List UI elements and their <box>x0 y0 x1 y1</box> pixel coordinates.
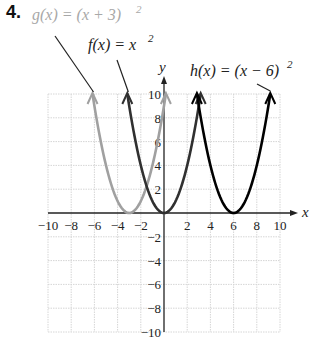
label-h-exponent: 2 <box>287 58 293 70</box>
parabola-chart: xy−10−8−6−4−2246810108642−2−4−6−8−10g(x)… <box>0 0 316 359</box>
x-tick-label: −8 <box>64 218 78 233</box>
y-tick-label: −4 <box>147 254 161 269</box>
x-axis-arrow-icon <box>290 210 298 216</box>
x-tick-label: −2 <box>134 218 148 233</box>
y-tick-label: −10 <box>141 325 161 340</box>
label-h: h(x) = (x − 6) <box>190 62 279 80</box>
x-tick-label: 10 <box>274 218 287 233</box>
x-tick-label: 6 <box>230 218 237 233</box>
y-tick-label: −2 <box>147 230 161 245</box>
y-tick-label: 2 <box>155 182 162 197</box>
y-tick-label: 10 <box>148 87 161 102</box>
y-axis-arrow-icon <box>161 76 167 84</box>
label-g-exponent: 2 <box>136 3 142 15</box>
y-axis-label: y <box>157 59 166 75</box>
y-tick-label: −6 <box>147 277 161 292</box>
label-g: g(x) = (x + 3) <box>32 6 121 24</box>
x-axis-label: x <box>301 204 309 220</box>
x-tick-label: −6 <box>87 218 101 233</box>
leader-line-f <box>117 60 128 92</box>
x-tick-label: 2 <box>184 218 191 233</box>
x-tick-label: −10 <box>38 218 58 233</box>
x-tick-label: 8 <box>254 218 261 233</box>
label-f: f(x) = x <box>88 36 136 54</box>
x-tick-label: 4 <box>207 218 214 233</box>
leader-line-h <box>257 84 270 91</box>
y-tick-label: −8 <box>147 301 161 316</box>
x-tick-label: −4 <box>111 218 125 233</box>
label-f-exponent: 2 <box>148 32 154 44</box>
y-tick-label: 4 <box>155 158 162 173</box>
